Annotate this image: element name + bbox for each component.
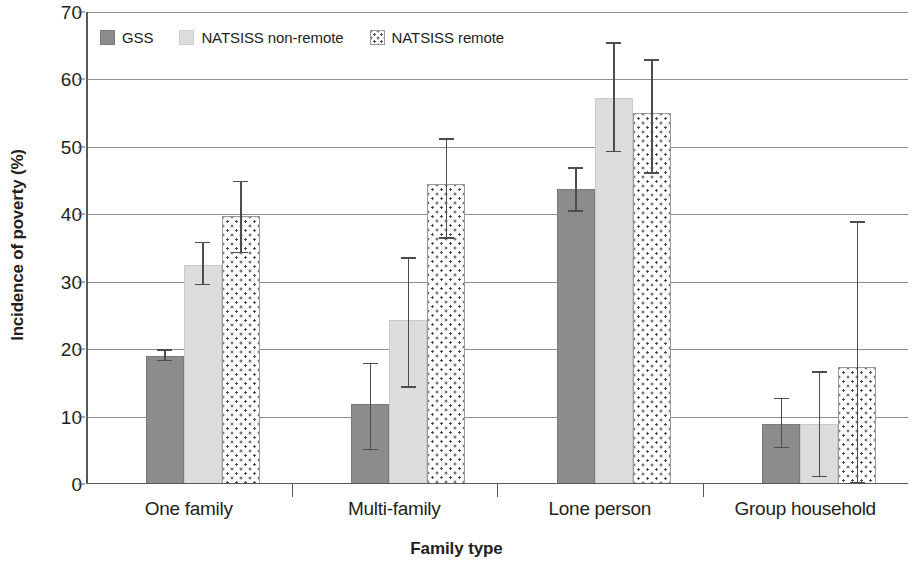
legend-item-natsiss-remote: NATSISS remote [370, 29, 505, 46]
x-axis-tick-separator [497, 484, 498, 497]
error-bar-cap-upper [233, 181, 248, 183]
bar-one-family-gss [146, 356, 184, 484]
x-axis-category-labels: One familyMulti-familyLone personGroup h… [86, 498, 908, 530]
bar-multi-family-gss [351, 404, 389, 484]
x-category-label-multi-family: Multi-family [348, 498, 440, 520]
error-bar-cap-upper [195, 242, 210, 244]
legend-swatch-natsiss-remote-icon [370, 30, 385, 45]
y-tick-mark [78, 79, 85, 80]
x-axis-tick-separators [86, 484, 908, 498]
bar-one-family-natsiss-remote [222, 216, 260, 484]
legend-swatch-natsiss-non-remote-icon [179, 30, 194, 45]
legend-swatch-gss-icon [100, 30, 115, 45]
gridline [86, 214, 908, 215]
x-category-label-lone-person: Lone person [549, 498, 651, 520]
bar-group-household-natsiss-non-remote [800, 424, 838, 484]
gridline [86, 147, 908, 148]
error-bar-cap-upper [644, 59, 659, 61]
legend-item-gss: GSS [100, 29, 153, 46]
y-tick-mark [78, 146, 85, 147]
y-axis-line [86, 12, 88, 484]
y-tick-label: 20 [38, 340, 82, 359]
error-bar-cap-upper [439, 138, 454, 140]
plot-area [86, 12, 908, 484]
bar-lone-person-natsiss-non-remote [595, 98, 633, 484]
x-axis-title: Family type [0, 539, 913, 559]
y-tick-mark [78, 214, 85, 215]
y-tick-mark [78, 281, 85, 282]
y-tick-mark [78, 349, 85, 350]
x-axis-tick-separator [292, 484, 293, 497]
y-tick-label: 60 [38, 70, 82, 89]
bar-group-household-gss [762, 424, 800, 484]
error-bar-cap-upper [401, 257, 416, 259]
y-tick-mark [78, 416, 85, 417]
error-bar-cap-upper [606, 42, 621, 44]
x-category-label-group-household: Group household [735, 498, 876, 520]
y-tick-label: 70 [38, 3, 82, 22]
y-tick-label: 40 [38, 205, 82, 224]
legend-label: GSS [122, 29, 153, 46]
y-axis-ticks: 010203040506070 [30, 0, 82, 571]
bar-multi-family-natsiss-remote [427, 184, 465, 484]
y-tick-mark [78, 12, 85, 13]
legend-item-natsiss-non-remote: NATSISS non-remote [179, 29, 343, 46]
x-category-label-one-family: One family [145, 498, 233, 520]
bar-one-family-natsiss-non-remote [184, 265, 222, 484]
poverty-incidence-bar-chart: Incidence of poverty (%) 010203040506070… [0, 0, 913, 571]
gridline [86, 79, 908, 80]
error-bar-cap-upper [774, 398, 789, 400]
y-tick-label: 10 [38, 407, 82, 426]
bar-lone-person-natsiss-remote [633, 113, 671, 484]
error-bar-cap-upper [568, 167, 583, 169]
y-axis-title-text: Incidence of poverty (%) [8, 149, 28, 341]
legend-label: NATSISS remote [392, 29, 505, 46]
bar-multi-family-natsiss-non-remote [389, 320, 427, 484]
y-tick-label: 50 [38, 137, 82, 156]
legend-label: NATSISS non-remote [201, 29, 343, 46]
bar-lone-person-gss [557, 189, 595, 484]
gridline [86, 12, 908, 13]
error-bar-cap-upper [363, 363, 378, 365]
y-tick-label: 0 [38, 475, 82, 494]
error-bar-cap-upper [850, 221, 865, 223]
chart-legend: GSSNATSISS non-remoteNATSISS remote [100, 29, 504, 46]
error-bar-cap-upper [812, 371, 827, 373]
y-tick-mark [78, 484, 85, 485]
y-tick-label: 30 [38, 272, 82, 291]
x-axis-tick-separator [703, 484, 704, 497]
bar-group-household-natsiss-remote [838, 367, 876, 484]
